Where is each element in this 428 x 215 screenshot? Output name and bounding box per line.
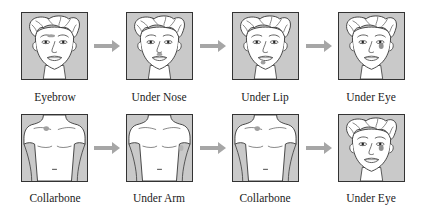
right-arrow-icon <box>306 142 332 154</box>
right-arrow-icon <box>306 40 332 52</box>
step-label: Collarbone <box>210 192 320 204</box>
tap-point-collarbone-mark <box>44 126 49 131</box>
step-label: Under Arm <box>104 192 214 204</box>
step-label: Under Lip <box>210 91 320 103</box>
right-arrow-icon <box>200 40 226 52</box>
tap-point-under-eye-mark <box>379 145 384 151</box>
step-under-nose-panel <box>126 12 193 80</box>
tap-point-collarbone-mark <box>255 126 260 131</box>
step-under-eye-2-panel <box>338 114 405 182</box>
tap-point-under-lip-mark <box>261 61 266 65</box>
tap-point-eyebrow-mark <box>47 34 55 37</box>
tap-point-under-arm-mark <box>179 145 183 151</box>
step-label: Eyebrow <box>0 91 110 103</box>
step-label: Under Nose <box>104 91 214 103</box>
tap-point-under-nose-mark <box>157 53 163 56</box>
tap-point-under-eye-mark <box>379 43 384 49</box>
step-label: Under Eye <box>316 91 426 103</box>
step-under-arm-panel <box>126 114 193 182</box>
step-collarbone-2-panel <box>232 114 299 182</box>
step-label: Collarbone <box>0 192 110 204</box>
step-collarbone-panel <box>21 114 88 182</box>
right-arrow-icon <box>94 142 120 154</box>
step-under-lip-panel <box>232 12 299 80</box>
step-eyebrow-panel <box>21 12 88 80</box>
right-arrow-icon <box>94 40 120 52</box>
step-under-eye-panel <box>338 12 405 80</box>
step-label: Under Eye <box>316 192 426 204</box>
right-arrow-icon <box>200 142 226 154</box>
